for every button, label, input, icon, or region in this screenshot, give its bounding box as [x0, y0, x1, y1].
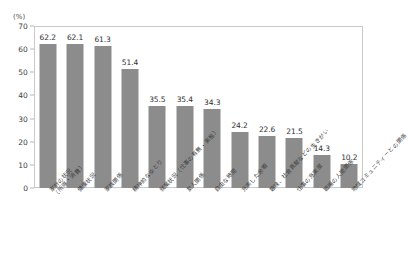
y-axis-tick-label: 40 — [18, 91, 28, 100]
bar-value-label: 61.3 — [94, 35, 110, 44]
bar — [231, 132, 248, 188]
bar — [39, 44, 56, 188]
y-axis-unit-label: (%) — [13, 13, 25, 21]
bar-value-label: 35.5 — [149, 95, 165, 104]
bar-value-label: 35.4 — [177, 95, 193, 104]
y-axis-tick-label: 10 — [18, 160, 28, 169]
bar-value-label: 22.6 — [259, 125, 275, 134]
bar — [94, 46, 111, 188]
y-axis-tick-label: 20 — [18, 137, 28, 146]
y-axis: 010203040506070 — [0, 26, 34, 188]
bar-slot: 24.2 — [226, 26, 253, 188]
bar-slot: 61.3 — [89, 26, 116, 188]
bar — [121, 69, 138, 188]
bar-slot: 51.4 — [116, 26, 143, 188]
y-axis-tick-label: 0 — [23, 184, 28, 193]
bar-value-label: 62.2 — [40, 33, 56, 42]
x-axis-category-labels: 家計の状況（所得・消費）健康状況家族関係精神的なゆとり就業状況（仕事の有無・実態… — [34, 189, 363, 266]
bar — [259, 136, 276, 188]
y-axis-tick-label: 50 — [18, 68, 28, 77]
bar-value-label: 51.4 — [122, 58, 138, 67]
bar-value-label: 24.2 — [231, 121, 247, 130]
y-axis-tick-label: 60 — [18, 45, 28, 54]
bar-value-label: 62.1 — [67, 33, 83, 42]
bar-slot: 22.6 — [253, 26, 280, 188]
y-axis-tick-label: 30 — [18, 114, 28, 123]
bar-slot: 62.2 — [34, 26, 61, 188]
bar-value-label: 21.5 — [286, 127, 302, 136]
bar — [204, 109, 221, 188]
bar-slot: 14.3 — [308, 26, 335, 188]
bar-value-label: 34.3 — [204, 98, 220, 107]
y-axis-tick-label: 70 — [18, 22, 28, 31]
bar-slot: 34.3 — [199, 26, 226, 188]
